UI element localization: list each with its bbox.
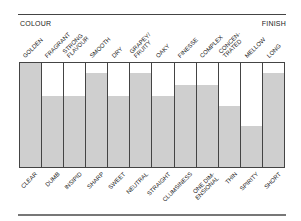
bar-column bbox=[42, 63, 64, 167]
bar-fill bbox=[86, 73, 107, 167]
bar-column bbox=[241, 63, 263, 167]
top-descriptor-label: GRAPEY/ FRUITY bbox=[128, 32, 155, 59]
bar-fill bbox=[219, 106, 240, 167]
bar-fill bbox=[152, 96, 173, 167]
bar-column bbox=[197, 63, 219, 167]
bottom-descriptor-label: CLEAR bbox=[20, 171, 38, 189]
top-descriptor-label: OAKY bbox=[155, 43, 171, 59]
bar-fill bbox=[42, 96, 63, 167]
top-descriptor-label: SMOOTH bbox=[88, 36, 111, 59]
bottom-descriptor-label: SHORT bbox=[263, 171, 282, 190]
bottom-rule bbox=[18, 214, 286, 216]
bottom-descriptor-label: ONE DIM- ENSIONAL bbox=[190, 171, 220, 201]
bar-fill bbox=[64, 96, 85, 167]
top-rule bbox=[18, 14, 286, 15]
bar-column bbox=[20, 63, 42, 167]
bar-column bbox=[219, 63, 241, 167]
bottom-descriptor-label: INSIPID bbox=[63, 171, 83, 191]
bottom-descriptor-label: SHARP bbox=[86, 171, 105, 190]
top-descriptor-label: GOLDEN bbox=[22, 37, 44, 59]
top-descriptor-label: DRY bbox=[111, 46, 124, 59]
bar-column bbox=[108, 63, 130, 167]
bar-column bbox=[175, 63, 197, 167]
bar-fill bbox=[20, 63, 41, 167]
bar-column bbox=[152, 63, 174, 167]
bar-fill bbox=[130, 73, 151, 167]
bar-column bbox=[263, 63, 284, 167]
bar-fill bbox=[241, 126, 262, 167]
bar-fill bbox=[175, 85, 196, 167]
bar-column bbox=[130, 63, 152, 167]
bar-column bbox=[64, 63, 86, 167]
top-descriptor-label: MELLOW bbox=[244, 36, 267, 59]
bar-fill bbox=[263, 73, 284, 167]
bottom-descriptor-label: THIN bbox=[224, 171, 238, 185]
bottom-descriptor-label: SPIRITY bbox=[239, 171, 260, 192]
colour-label: COLOUR bbox=[20, 20, 51, 27]
bar-fill bbox=[108, 96, 129, 167]
profile-chart bbox=[19, 62, 285, 168]
top-descriptor-label: FINESSE bbox=[177, 37, 199, 59]
bar-fill bbox=[197, 85, 218, 167]
bar-column bbox=[86, 63, 108, 167]
bottom-descriptor-label: DUMB bbox=[44, 171, 61, 188]
bottom-descriptor-label: SWEET bbox=[108, 171, 127, 190]
finish-label: FINISH bbox=[262, 20, 286, 27]
top-descriptor-label: LONG bbox=[266, 43, 282, 59]
